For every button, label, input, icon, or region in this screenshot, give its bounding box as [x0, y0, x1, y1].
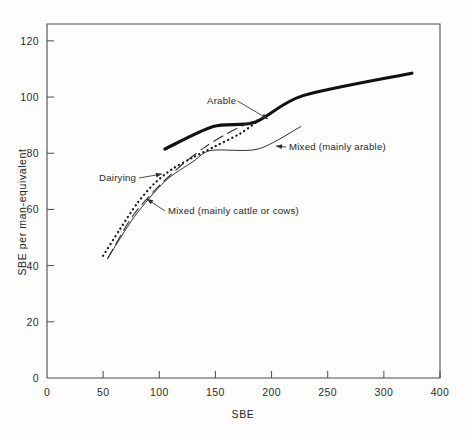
annotation-label: Mixed (mainly arable)	[289, 141, 386, 152]
y-tick-label: 80	[27, 147, 39, 159]
y-tick-label: 20	[27, 316, 39, 328]
x-tick-label: 50	[97, 386, 109, 398]
x-tick-label: 0	[44, 386, 50, 398]
y-axis-title: SBE per man-equivalent	[16, 148, 28, 275]
x-tick-label: 150	[206, 386, 225, 398]
y-tick-label: 120	[20, 35, 39, 47]
x-tick-label: 100	[150, 386, 169, 398]
chart-figure: 050100150200250300400 020406080100120 Ar…	[0, 0, 472, 437]
x-axis-title: SBE	[232, 408, 255, 420]
annotation-mixed-mainly-arable: Mixed (mainly arable)	[276, 141, 386, 152]
x-tick-label: 200	[262, 386, 281, 398]
annotation-label: Arable	[207, 95, 236, 106]
y-tick-label: 0	[33, 372, 39, 384]
x-tick-label: 300	[374, 386, 393, 398]
y-tick-label: 40	[27, 260, 39, 272]
y-tick-label: 100	[20, 91, 39, 103]
x-tick-label: 250	[318, 386, 337, 398]
x-tick-label: 400	[431, 386, 450, 398]
annotation-label: Dairying	[99, 172, 136, 183]
annotation-label: Mixed (mainly cattle or cows)	[168, 205, 299, 216]
y-tick-label: 60	[27, 203, 39, 215]
chart-background	[0, 0, 472, 437]
sbe-line-chart: 050100150200250300400 020406080100120 Ar…	[0, 0, 472, 437]
